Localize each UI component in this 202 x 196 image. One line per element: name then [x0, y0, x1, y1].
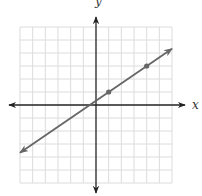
axes — [9, 17, 185, 193]
y-axis-label: y — [94, 0, 102, 8]
x-axis-label: x — [192, 98, 199, 112]
data-point — [106, 89, 111, 94]
coordinate-plane: x y — [0, 0, 202, 196]
data-point — [144, 63, 149, 68]
